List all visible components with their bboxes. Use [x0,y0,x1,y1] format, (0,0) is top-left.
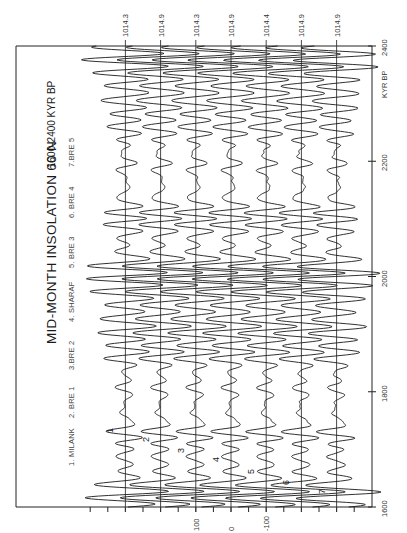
baseline-value-label: 1014.3 [121,14,130,37]
legend-entry: 6. BRE 4 [67,186,76,218]
chart-subtitle: 1600-2400 KYR BP [46,81,57,168]
amplitude-tick-label: 100 [192,518,201,531]
series-number-label: 5 [246,469,256,474]
insolation-chart: MID-MONTH INSOLATION 60 N 1600-2400 KYR … [0,0,407,533]
legend-entry: 5. BRE 3 [67,236,76,268]
series-number-label: 7 [317,489,327,494]
baseline-value-label: 1014.4 [262,14,271,37]
legend-entry: 4. SHARAF [67,281,76,322]
series-number-label: 4 [211,457,221,462]
plot-area [0,0,407,533]
legend-entry: 1. MILANK [67,428,76,466]
legend-entry: 3.BRE 2 [67,341,76,370]
time-tick-label: 2400 [380,39,389,56]
series-number-label: 1 [105,428,115,433]
baseline-value-label: 1014.9 [297,14,306,37]
time-tick-label: 1600 [380,500,389,517]
time-tick-label: 2000 [380,270,389,287]
baseline-value-label: 1014.9 [333,14,342,37]
amplitude-tick-label: 0 [227,527,236,531]
time-axis-label: KYR BP [380,70,389,98]
legend-entry: 7.BRE 5 [67,138,76,167]
amplitude-tick-label: -100 [262,516,271,531]
series-number-label: 2 [141,437,151,442]
series-number-label: 6 [281,480,291,485]
baseline-value-label: 1014.3 [192,14,201,37]
series-group [81,40,381,512]
series-number-label: 3 [176,448,186,453]
time-tick-label: 2200 [380,155,389,172]
baseline-value-label: 1014.9 [227,14,236,37]
legend-entry: 2. BRE 1 [67,386,76,418]
baseline-value-label: 1014.9 [157,14,166,37]
series-line [293,46,381,507]
time-tick-label: 1800 [380,385,389,402]
chart-title: MID-MONTH INSOLATION 60 N [44,141,59,344]
